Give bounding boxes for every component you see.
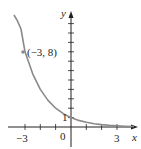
x-tick-label-3: 3: [114, 132, 120, 144]
y-tick-label-1: 1: [62, 111, 68, 123]
origin-label: 0: [60, 130, 66, 142]
point-label: (−3, 8): [27, 46, 57, 59]
y-axis-label: y: [60, 7, 66, 19]
x-axis-label: x: [131, 131, 137, 143]
exponential-graph: (−3, 8) y x 1 0 −3 3: [0, 0, 141, 149]
x-tick-label-neg3: −3: [16, 132, 28, 144]
point-marker: [21, 50, 25, 54]
x-axis: [8, 124, 138, 130]
